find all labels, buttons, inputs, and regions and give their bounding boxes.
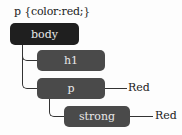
node-h1-label: h1	[64, 54, 78, 67]
p-color-value: Red	[128, 81, 150, 94]
node-h1: h1	[37, 50, 105, 71]
strong-value-line	[130, 116, 153, 117]
strong-color-value: Red	[155, 109, 177, 122]
body-to-p-connector	[22, 60, 38, 89]
node-strong: strong	[64, 106, 130, 127]
node-body: body	[10, 23, 79, 45]
node-p-label: p	[67, 82, 74, 95]
node-strong-label: strong	[79, 110, 115, 123]
node-p: p	[37, 78, 105, 99]
p-value-line	[105, 88, 127, 89]
css-rule-title: p {color:red;}	[14, 5, 90, 18]
node-body-label: body	[31, 28, 58, 41]
p-to-strong-connector	[49, 99, 65, 117]
